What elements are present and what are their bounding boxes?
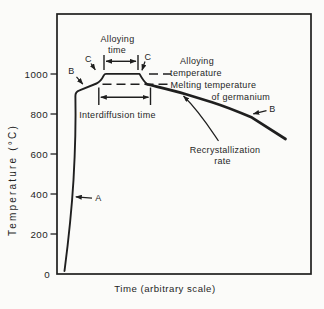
point-c-left-label: C bbox=[85, 54, 92, 64]
y-axis-ticks bbox=[51, 74, 58, 234]
point-c-right-label: C bbox=[145, 52, 152, 62]
y-axis-title: Temperature (°C) bbox=[7, 124, 18, 236]
y-tick-800: 800 bbox=[30, 109, 48, 120]
x-axis-title: Time (arbitrary scale) bbox=[114, 283, 215, 294]
y-tick-400: 400 bbox=[30, 189, 48, 200]
y-tick-1000: 1000 bbox=[25, 69, 49, 80]
interdiffusion-time-measure bbox=[99, 88, 151, 106]
alloying-time-measure bbox=[104, 55, 138, 70]
figure-canvas: 1000 800 600 400 200 0 Temperature (°C) … bbox=[0, 0, 324, 309]
b-left-arrow bbox=[77, 77, 83, 84]
point-b-left-label: B bbox=[68, 66, 74, 76]
alloying-temperature-label-line1: Alloying bbox=[180, 56, 214, 66]
a-arrow bbox=[76, 197, 92, 198]
y-tick-0: 0 bbox=[44, 269, 50, 280]
point-b-right-label: B bbox=[269, 104, 275, 114]
y-tick-600: 600 bbox=[30, 149, 48, 160]
alloying-temperature-chart: 1000 800 600 400 200 0 Temperature (°C) … bbox=[0, 0, 324, 309]
melting-temperature-label-line2: of germanium bbox=[212, 92, 271, 102]
alloying-time-label-line2: time bbox=[108, 45, 126, 55]
alloying-temperature-label-line2: temperature bbox=[170, 68, 222, 78]
alloying-time-label-line1: Alloying bbox=[101, 34, 135, 44]
interdiffusion-time-label: Interdiffusion time bbox=[79, 110, 156, 120]
b-right-arrow bbox=[253, 111, 266, 114]
c-right-arrow bbox=[142, 62, 145, 71]
c-left-arrow bbox=[91, 64, 95, 70]
heating-curve bbox=[65, 74, 148, 271]
point-a-label: A bbox=[95, 193, 101, 203]
melting-temperature-label-line1: Melting temperature bbox=[171, 80, 257, 90]
recrystallization-label-line1: Recrystallization bbox=[190, 145, 261, 155]
recrystallization-label-line2: rate bbox=[214, 156, 231, 166]
y-tick-200: 200 bbox=[30, 229, 48, 240]
plot-frame bbox=[57, 14, 311, 274]
